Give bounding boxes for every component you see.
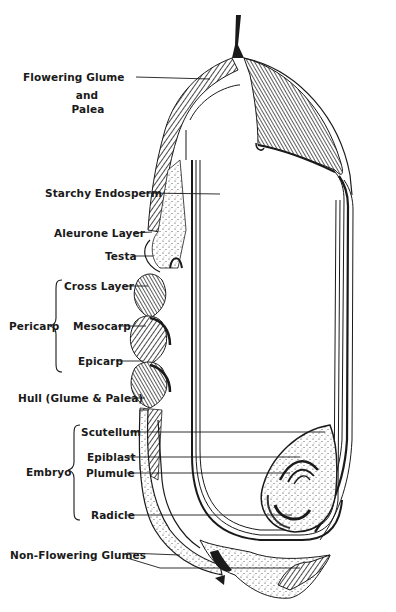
label-starchy-endosperm: Starchy Endosperm	[45, 187, 162, 199]
label-epicarp: Epicarp	[78, 355, 123, 367]
embryo-shape	[261, 425, 337, 532]
label-scutellum: Scutellum	[81, 426, 141, 438]
label-cross-layer: Cross Layer	[64, 280, 134, 292]
grain-illustration	[0, 0, 396, 612]
label-palea: Palea	[68, 103, 108, 115]
label-aleurone-layer: Aleurone Layer	[54, 227, 145, 239]
pericarp-layers	[130, 274, 170, 480]
awn-tip	[232, 15, 244, 58]
grain-diagram: Flowering Glume and Palea Starchy Endosp…	[0, 0, 396, 612]
label-hull: Hull (Glume & Palea)	[18, 392, 143, 404]
label-mesocarp: Mesocarp	[73, 320, 131, 332]
label-plumule: Plumule	[86, 467, 135, 479]
label-radicle: Radicle	[91, 509, 135, 521]
label-non-flowering-glumes: Non-Flowering Glumes	[10, 549, 146, 561]
label-embryo: Embryo	[26, 466, 71, 478]
label-testa: Testa	[105, 250, 137, 262]
label-flowering-glume: Flowering Glume	[23, 71, 125, 83]
label-epiblast: Epiblast	[87, 451, 136, 463]
label-and: and	[72, 89, 102, 101]
label-pericarp: Pericarp	[9, 320, 59, 332]
